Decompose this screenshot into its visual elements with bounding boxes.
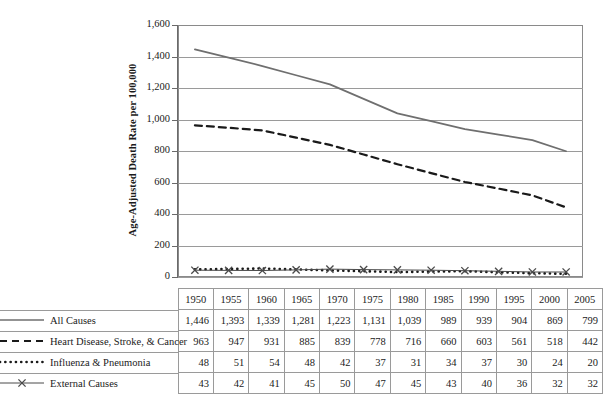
- cell: 34: [426, 352, 461, 373]
- cell: 50: [320, 373, 355, 394]
- cell: 1,223: [320, 310, 355, 331]
- legend-label-2: Influenza & Pneumonia: [50, 357, 150, 368]
- cell: 839: [320, 331, 355, 352]
- cell: 45: [284, 373, 319, 394]
- cell: 989: [426, 310, 461, 331]
- legend-divider: [0, 310, 178, 311]
- legend-swatch-3: [0, 377, 44, 389]
- table-row: Heart Disease, Stroke, & Cancer963947931…: [0, 331, 603, 352]
- cell: 904: [496, 310, 531, 331]
- table-row: External Causes434241455047454340363232: [0, 373, 603, 394]
- table-row: All Causes1,4461,3931,3391,2811,2231,131…: [0, 310, 603, 331]
- legend-label-0: All Causes: [50, 315, 96, 326]
- y-tick-label-800: 800: [126, 145, 170, 155]
- data-table: 1950195519601965197019751980198519901995…: [0, 288, 603, 394]
- legend-swatch-1: [0, 335, 44, 347]
- cell: 48: [284, 352, 319, 373]
- column-header-1975: 1975: [355, 289, 390, 310]
- table-header-corner: [0, 289, 178, 310]
- data-table-wrapper: 1950195519601965197019751980198519901995…: [0, 288, 603, 394]
- cell: 1,339: [249, 310, 284, 331]
- cell: 660: [426, 331, 461, 352]
- series-line-1: [195, 125, 566, 207]
- cell: 41: [249, 373, 284, 394]
- cell: 36: [496, 373, 531, 394]
- cell: 48: [178, 352, 213, 373]
- y-tick-label-1400: 1,400: [126, 51, 170, 61]
- y-tick-label-200: 200: [126, 240, 170, 250]
- column-header-1990: 1990: [461, 289, 496, 310]
- table-header: 1950195519601965197019751980198519901995…: [0, 289, 603, 310]
- cell: 799: [567, 310, 602, 331]
- column-header-1985: 1985: [426, 289, 461, 310]
- column-header-1980: 1980: [390, 289, 425, 310]
- cell: 885: [284, 331, 319, 352]
- table-row: Influenza & Pneumonia4851544842373134373…: [0, 352, 603, 373]
- cell: 20: [567, 352, 602, 373]
- legend-item-1[interactable]: Heart Disease, Stroke, & Cancer: [0, 331, 178, 352]
- cell: 24: [532, 352, 567, 373]
- y-tick-label-1000: 1,000: [126, 114, 170, 124]
- cell: 518: [532, 331, 567, 352]
- cell: 32: [567, 373, 602, 394]
- cell: 43: [178, 373, 213, 394]
- cell: 31: [390, 352, 425, 373]
- cell: 442: [567, 331, 602, 352]
- cell: 1,039: [390, 310, 425, 331]
- cell: 716: [390, 331, 425, 352]
- legend-label-3: External Causes: [50, 378, 118, 389]
- legend-item-2[interactable]: Influenza & Pneumonia: [0, 352, 178, 373]
- column-header-2000: 2000: [532, 289, 567, 310]
- legend-label-1: Heart Disease, Stroke, & Cancer: [50, 336, 187, 347]
- cell: 1,393: [213, 310, 248, 331]
- cell: 42: [213, 373, 248, 394]
- y-tick-label-600: 600: [126, 177, 170, 187]
- cell: 778: [355, 331, 390, 352]
- chart-page: Age-Adjusted Death Rate per 100,000 0200…: [0, 0, 603, 412]
- series-lines: [178, 25, 583, 277]
- gridline-0: [178, 277, 583, 278]
- cell: 1,446: [178, 310, 213, 331]
- cell: 1,281: [284, 310, 319, 331]
- cell: 603: [461, 331, 496, 352]
- y-tick-label-1600: 1,600: [126, 19, 170, 29]
- legend-item-3[interactable]: External Causes: [0, 373, 178, 394]
- cell: 30: [496, 352, 531, 373]
- cell: 37: [461, 352, 496, 373]
- column-header-1965: 1965: [284, 289, 319, 310]
- cell: 51: [213, 352, 248, 373]
- cell: 561: [496, 331, 531, 352]
- column-header-2005: 2005: [567, 289, 602, 310]
- cell: 43: [426, 373, 461, 394]
- cell: 1,131: [355, 310, 390, 331]
- cell: 47: [355, 373, 390, 394]
- plot-area: [178, 25, 583, 277]
- y-tick-label-400: 400: [126, 208, 170, 218]
- column-header-1970: 1970: [320, 289, 355, 310]
- cell: 869: [532, 310, 567, 331]
- cell: 40: [461, 373, 496, 394]
- column-header-1960: 1960: [249, 289, 284, 310]
- cell: 32: [532, 373, 567, 394]
- column-header-1995: 1995: [496, 289, 531, 310]
- legend-divider: [0, 331, 178, 332]
- legend-swatch-0: [0, 314, 44, 326]
- y-tick-label-0: 0: [126, 271, 170, 281]
- cell: 45: [390, 373, 425, 394]
- legend-divider: [0, 373, 178, 374]
- legend-item-0[interactable]: All Causes: [0, 310, 178, 331]
- table-header-row: 1950195519601965197019751980198519901995…: [0, 289, 603, 310]
- legend-divider: [0, 352, 178, 353]
- cell: 54: [249, 352, 284, 373]
- table-body: All Causes1,4461,3931,3391,2811,2231,131…: [0, 310, 603, 394]
- legend-swatch-2: [0, 356, 44, 368]
- cell: 947: [213, 331, 248, 352]
- cell: 939: [461, 310, 496, 331]
- cell: 42: [320, 352, 355, 373]
- column-header-1955: 1955: [213, 289, 248, 310]
- column-header-1950: 1950: [178, 289, 213, 310]
- cell: 37: [355, 352, 390, 373]
- series-line-0: [195, 49, 566, 151]
- cell: 931: [249, 331, 284, 352]
- y-tick-label-1200: 1,200: [126, 82, 170, 92]
